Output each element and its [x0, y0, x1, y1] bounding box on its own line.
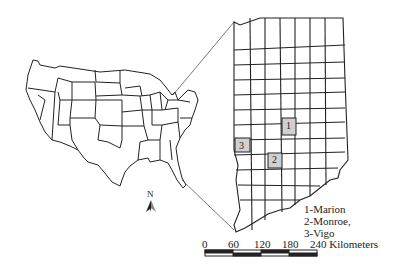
- legend-line-2: 2-Monroe,: [304, 215, 351, 227]
- scale-tick-0: 0: [202, 238, 208, 250]
- county-label-marion: 1: [286, 120, 291, 131]
- scale-tick-240: 240 Kilometers: [310, 238, 378, 250]
- scale-tick-180: 180: [282, 238, 299, 250]
- scale-tick-120: 120: [254, 238, 271, 250]
- county-label-monroe: 2: [272, 154, 277, 165]
- north-label: N: [147, 188, 154, 200]
- scale-bar: [205, 250, 317, 256]
- north-arrow-icon: [146, 200, 156, 212]
- map-figure: 1 2 3 N 1-Marion 2-Monroe, 3-Vigo 0 60 1…: [0, 0, 398, 267]
- legend-line-1: 1-Marion: [304, 203, 346, 215]
- scale-tick-60: 60: [228, 238, 239, 250]
- us-map: [26, 60, 198, 188]
- county-label-vigo: 3: [239, 140, 244, 151]
- inset-connector-lines: [173, 22, 234, 230]
